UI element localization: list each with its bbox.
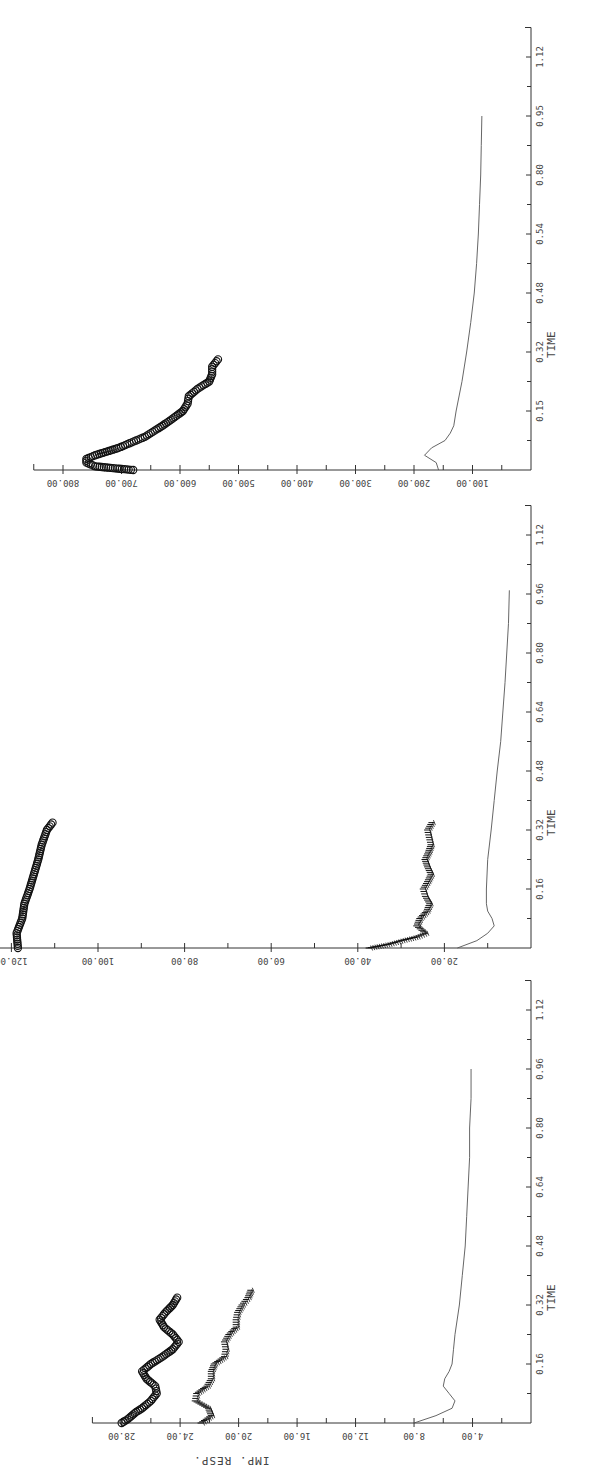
chart-panel-top: 0.150.320.480.540.800.951.12TIME100.0020… (34, 28, 558, 489)
series-line (457, 590, 509, 948)
time-axis-title: TIME (545, 809, 558, 836)
value-tick-label: 100.00 (456, 478, 489, 488)
time-tick-label: 0.95 (535, 105, 545, 127)
value-tick-label: 800.00 (47, 478, 80, 488)
value-tick-label: 28.00 (108, 1431, 135, 1441)
value-tick-label: 40.00 (344, 956, 371, 966)
time-tick-label: 0.80 (535, 164, 545, 186)
time-tick-label: 0.80 (535, 642, 545, 664)
time-tick-label: 1.12 (535, 524, 545, 546)
value-axis-title: IMP. RESP. (193, 1454, 269, 1467)
time-tick-label: 0.16 (535, 1353, 545, 1375)
series-circles (83, 356, 222, 474)
series-line (414, 1069, 471, 1423)
value-tick-label: 300.00 (339, 478, 372, 488)
value-tick-label: 4.00 (462, 1431, 484, 1441)
time-tick-label: 0.64 (535, 1176, 545, 1198)
time-tick-label: 1.12 (535, 46, 545, 68)
chart-panel-bottom: 0.160.320.480.640.800.961.12TIME4.008.00… (92, 981, 558, 1468)
time-tick-label: 0.48 (535, 760, 545, 782)
value-tick-label: 16.00 (284, 1431, 311, 1441)
series-crosses (192, 1288, 255, 1426)
value-tick-label: 600.00 (164, 478, 197, 488)
time-tick-label: 0.80 (535, 1117, 545, 1139)
value-tick-label: 500.00 (222, 478, 255, 488)
value-tick-label: 8.00 (403, 1431, 425, 1441)
value-tick-label: 120.00 (0, 956, 28, 966)
series-crosses (366, 820, 436, 950)
time-tick-label: 0.48 (535, 1235, 545, 1257)
value-tick-label: 12.00 (342, 1431, 369, 1441)
time-tick-label: 0.16 (535, 878, 545, 900)
time-tick-label: 0.15 (535, 400, 545, 422)
time-axis-title: TIME (545, 1284, 558, 1311)
series-circles (118, 1294, 182, 1427)
time-tick-label: 0.48 (535, 282, 545, 304)
value-tick-label: 400.00 (281, 478, 314, 488)
value-tick-label: 20.00 (431, 956, 458, 966)
chart-panel-middle: 0.160.320.480.640.800.961.12TIME20.0040.… (0, 506, 558, 967)
chart-canvas: 0.160.320.480.640.800.961.12TIME4.008.00… (0, 0, 599, 1470)
time-tick-label: 0.32 (535, 819, 545, 841)
value-tick-label: 60.00 (258, 956, 285, 966)
series-circles (13, 819, 56, 952)
time-axis-title: TIME (545, 331, 558, 358)
value-tick-label: 700.00 (105, 478, 138, 488)
value-tick-label: 24.00 (167, 1431, 194, 1441)
time-tick-label: 0.32 (535, 1294, 545, 1316)
value-tick-label: 200.00 (398, 478, 431, 488)
time-tick-label: 0.32 (535, 341, 545, 363)
time-tick-label: 0.64 (535, 701, 545, 723)
series-line (425, 116, 482, 470)
value-tick-label: 100.00 (82, 956, 115, 966)
time-tick-label: 0.96 (535, 1058, 545, 1080)
time-tick-label: 0.96 (535, 583, 545, 605)
time-tick-label: 1.12 (535, 999, 545, 1021)
impulse-response-chart: 0.160.320.480.640.800.961.12TIME4.008.00… (0, 0, 599, 1470)
value-tick-label: 20.00 (225, 1431, 252, 1441)
time-tick-label: 0.54 (535, 223, 545, 245)
value-tick-label: 80.00 (171, 956, 198, 966)
